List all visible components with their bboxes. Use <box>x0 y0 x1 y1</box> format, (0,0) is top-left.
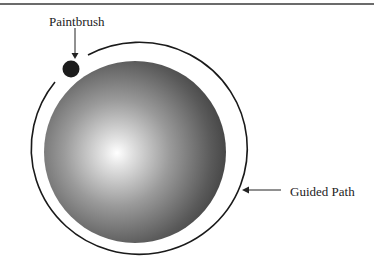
guided-path-label: Guided Path <box>290 184 355 200</box>
sphere <box>44 61 226 243</box>
guided-path-arrow-icon <box>242 187 281 194</box>
paintbrush-dot <box>63 61 80 78</box>
paintbrush-label: Paintbrush <box>49 14 105 30</box>
paintbrush-arrow-icon <box>72 28 79 59</box>
diagram-canvas <box>0 0 374 275</box>
